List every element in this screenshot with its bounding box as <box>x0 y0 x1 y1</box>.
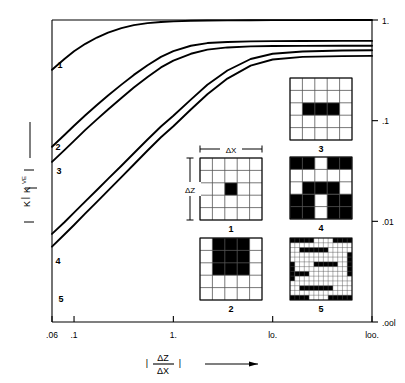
curve-label-3: 3 <box>56 166 61 176</box>
dim-z-label: ΔZ <box>185 186 195 195</box>
x-tick-label: loo. <box>365 330 379 340</box>
x-tick-label: .06 <box>46 330 58 340</box>
x-axis-bar-right: | <box>179 358 181 368</box>
dim-x-label: ΔX <box>226 146 237 155</box>
curve-label-2: 2 <box>55 142 60 152</box>
curve-label-4: 4 <box>55 256 60 266</box>
curve-label-5: 5 <box>58 294 63 304</box>
curve-label-1: 1 <box>57 60 62 70</box>
inset-filled-cell <box>290 238 314 243</box>
y-axis-caption-bar-left: | <box>20 197 30 199</box>
x-axis-numerator: ΔZ <box>157 353 169 363</box>
inset-filled-cell <box>314 262 338 267</box>
inset-caption-4: 4 <box>318 223 323 233</box>
inset-caption-1: 1 <box>228 224 233 234</box>
inset-filled-cell <box>295 271 309 276</box>
inset-filled-cell <box>300 286 333 291</box>
y-axis-numerator-subscript: VE <box>21 176 27 184</box>
x-tick-label: .1 <box>70 330 77 340</box>
inset-filled-cell <box>328 295 352 300</box>
inset-filled-cell <box>212 238 249 275</box>
x-axis-bar-left: | <box>146 358 148 368</box>
inset-caption-2: 2 <box>228 304 233 314</box>
x-axis-denominator: ΔX <box>157 366 169 376</box>
figure-root: .06.11.lo.loo. 1..1.01.ool 12345 12345ΔX… <box>0 0 405 383</box>
inset-caption-3: 3 <box>318 144 323 154</box>
y-axis-denominator: K <box>22 201 32 207</box>
inset-caption-5: 5 <box>318 304 323 314</box>
inset-background <box>290 238 352 300</box>
inset-filled-cell <box>347 252 352 276</box>
y-tick-label: .01 <box>382 217 394 227</box>
inset-filled-cell <box>225 183 237 195</box>
inset-filled-cell <box>302 103 339 115</box>
x-tick-label: lo. <box>268 330 277 340</box>
chart-canvas: .06.11.lo.loo. 1..1.01.ool 12345 12345ΔX… <box>0 0 405 383</box>
inset-filled-cell <box>302 182 339 194</box>
y-tick-label: 1. <box>382 16 389 26</box>
x-tick-label: 1. <box>170 330 177 340</box>
y-tick-label: .ool <box>382 318 396 328</box>
y-tick-label: .1 <box>382 116 389 126</box>
